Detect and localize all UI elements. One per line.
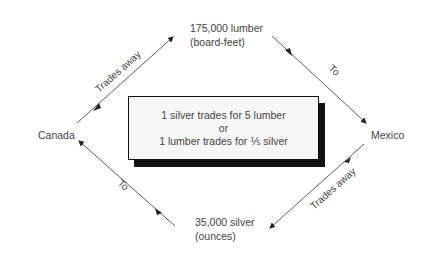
node-lumber-unit: (board-feet) <box>190 35 263 49</box>
node-canada: Canada <box>38 128 75 142</box>
edge-label: To <box>116 177 132 193</box>
arrowhead-icon <box>344 157 351 163</box>
edge-label: To <box>327 62 343 78</box>
node-mexico: Mexico <box>371 128 404 142</box>
exchange-rate-line-2: or <box>219 122 228 135</box>
arrowhead-icon <box>93 103 101 111</box>
node-silver: 35,000 silver (ounces) <box>195 215 255 243</box>
edge-label: Trades away <box>93 48 143 94</box>
node-silver-unit: (ounces) <box>195 229 255 243</box>
node-lumber: 175,000 lumber (board-feet) <box>190 21 263 49</box>
node-silver-quantity: 35,000 silver <box>195 215 255 229</box>
exchange-rate-line-1: 1 silver trades for 5 lumber <box>161 109 285 122</box>
exchange-rate-line-3: 1 lumber trades for ⅕ silver <box>159 135 288 148</box>
exchange-rate-box: 1 silver trades for 5 lumber or 1 lumber… <box>128 96 319 160</box>
node-lumber-quantity: 175,000 lumber <box>190 21 263 35</box>
